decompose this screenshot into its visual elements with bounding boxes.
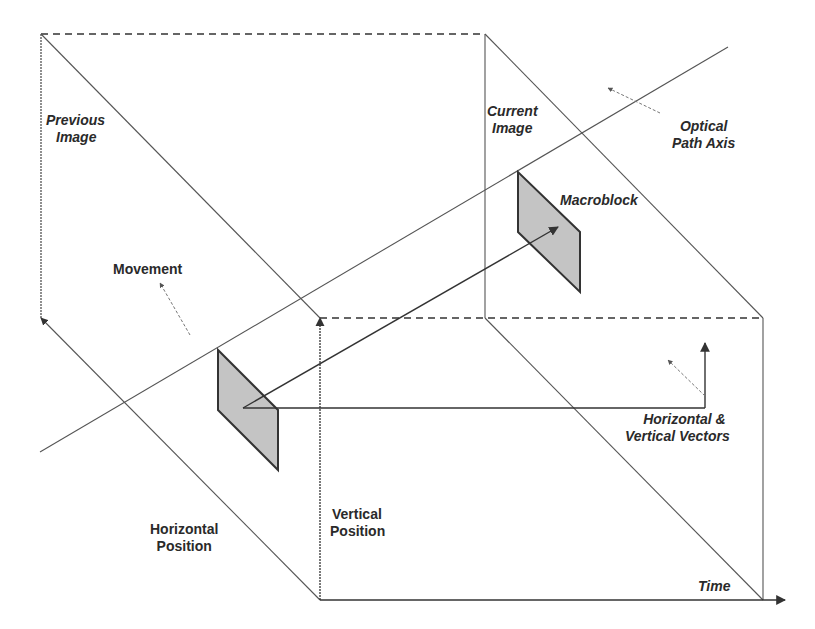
plane-edge <box>485 34 763 318</box>
hv-vectors-label-line2: Vertical Vectors <box>625 428 730 445</box>
time-label: Time <box>698 578 730 595</box>
movement-pointer <box>160 283 190 335</box>
optical-path-axis-label-line2: Path Axis <box>672 135 735 152</box>
horizontal-position-label-line1: Horizontal <box>150 521 218 538</box>
macroblock-label-text: Macroblock <box>560 192 638 209</box>
optical-path-axis-label-line1: Optical <box>672 118 735 135</box>
vertical-position-label-line2: Position <box>330 523 385 540</box>
previous-macroblock <box>218 350 278 470</box>
previous-image-label-line2: Image <box>46 129 105 146</box>
macroblocks <box>218 172 580 470</box>
current-image-label-line2: Image <box>487 120 538 137</box>
macroblock-label: Macroblock <box>560 192 638 209</box>
horizontal-position-label-line2: Position <box>150 538 218 555</box>
current-image-label: Current Image <box>487 103 538 137</box>
motion-vector <box>243 227 558 408</box>
movement-label-text: Movement <box>113 261 182 278</box>
hv-vectors-pointer <box>668 360 705 396</box>
diagram-canvas <box>0 0 815 629</box>
optical-path-axis-line <box>40 47 728 452</box>
plane-edge <box>485 318 763 600</box>
vertical-position-label-line1: Vertical <box>330 506 385 523</box>
hv-vectors-label-line1: Horizontal & <box>625 411 730 428</box>
movement-label: Movement <box>113 261 182 278</box>
label-pointers <box>160 88 705 396</box>
optical-path-axis-label: Optical Path Axis <box>672 118 735 152</box>
horizontal-vertical-vectors-label: Horizontal & Vertical Vectors <box>625 411 730 445</box>
time-label-text: Time <box>698 578 730 595</box>
previous-image-label-line1: Previous <box>46 112 105 129</box>
previous-image-label: Previous Image <box>46 112 105 146</box>
current-image-label-line1: Current <box>487 103 538 120</box>
motion-estimation-diagram: Previous Image Current Image Optical Pat… <box>0 0 815 629</box>
horizontal-position-label: Horizontal Position <box>150 521 218 555</box>
vertical-position-label: Vertical Position <box>330 506 385 540</box>
